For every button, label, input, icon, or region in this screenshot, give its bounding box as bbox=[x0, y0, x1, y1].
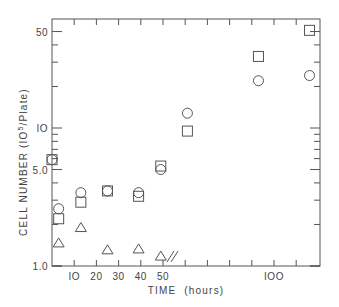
axis-break-icon bbox=[171, 251, 178, 262]
y-tick-label: 50 bbox=[36, 27, 48, 38]
y-tick-label: 5.0 bbox=[33, 165, 48, 176]
axis-break-icon bbox=[167, 251, 174, 262]
square-marker-icon bbox=[182, 126, 192, 136]
circle-marker-icon bbox=[76, 188, 86, 198]
x-tick-label: 40 bbox=[135, 271, 147, 282]
x-tick-label: IOO bbox=[264, 271, 284, 282]
circle-marker-icon bbox=[156, 165, 166, 175]
circle-marker-icon bbox=[134, 188, 144, 198]
axis-ticks bbox=[52, 19, 320, 266]
triangle-marker-icon bbox=[75, 223, 86, 232]
circle-marker-icon bbox=[103, 186, 113, 196]
plot-frame bbox=[52, 19, 320, 266]
x-tick-label: IO bbox=[68, 271, 80, 282]
circle-marker-icon bbox=[54, 204, 64, 214]
circle-marker-icon bbox=[182, 108, 192, 118]
x-tick-label: 50 bbox=[157, 271, 169, 282]
y-tick-label: 1.0 bbox=[33, 261, 48, 272]
triangle-marker-icon bbox=[133, 244, 144, 253]
triangle-marker-icon bbox=[155, 251, 166, 260]
x-tick-label: 30 bbox=[113, 271, 125, 282]
data-points bbox=[47, 25, 315, 260]
x-tick-label: 20 bbox=[90, 271, 102, 282]
chart: IO20304050IOO1.05.0IO50 TIME (hours) CEL… bbox=[0, 0, 339, 307]
y-axis-title: CELL NUMBER (IO5/Plate) bbox=[17, 88, 29, 236]
tick-labels: IO20304050IOO1.05.0IO50 bbox=[33, 27, 284, 282]
x-axis-title: TIME (hours) bbox=[148, 285, 225, 296]
triangle-marker-icon bbox=[53, 238, 64, 247]
square-marker-icon bbox=[305, 25, 315, 35]
square-marker-icon bbox=[76, 197, 86, 207]
circle-marker-icon bbox=[253, 76, 263, 86]
y-tick-label: IO bbox=[36, 123, 48, 134]
square-marker-icon bbox=[253, 51, 263, 61]
triangle-marker-icon bbox=[102, 245, 113, 254]
plot-border bbox=[52, 19, 320, 266]
circle-marker-icon bbox=[305, 71, 315, 81]
square-marker-icon bbox=[54, 214, 64, 224]
